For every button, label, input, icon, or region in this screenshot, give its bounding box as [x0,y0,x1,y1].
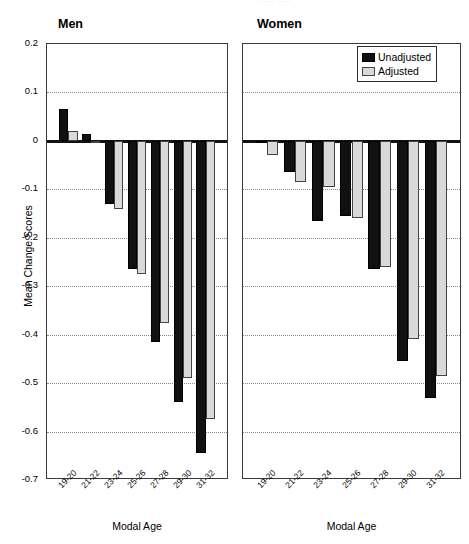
bar-men-25-26-adjusted [137,141,146,274]
gridline [47,92,227,93]
bar-men-27-28-adjusted [160,141,169,323]
bar-women-25-26-unadjusted [340,141,351,216]
bar-men-27-28-unadjusted [151,141,160,342]
y-tick-neg0p5: -0.5 [4,377,38,386]
y-tick-neg0p3: -0.3 [4,280,38,289]
legend-swatch-adjusted-icon [362,67,375,76]
bar-women-21-22-adjusted [295,141,306,182]
legend-label-adjusted: Adjusted [378,66,419,77]
y-tick-0p2: 0.2 [4,38,38,47]
bar-men-29-30-unadjusted [174,141,183,403]
legend-entry-unadjusted: Unadjusted [362,50,431,64]
bar-men-31-32-adjusted [206,141,215,420]
y-tick-neg0p2: -0.2 [4,232,38,241]
bar-men-19-20-unadjusted [59,109,68,140]
chart-figure: ·· ···· ····· Men Women Mean Change Scor… [0,0,469,544]
chart-legend: Unadjusted Adjusted [357,46,437,82]
bar-women-23-24-unadjusted [312,141,323,221]
plot-panel-men [46,43,228,479]
x-axis-label-women: Modal Age [242,520,461,532]
bar-women-31-32-unadjusted [425,141,436,398]
bar-women-23-24-adjusted [323,141,334,187]
legend-swatch-unadjusted-icon [362,53,375,62]
bar-women-27-28-unadjusted [368,141,379,269]
bar-women-29-30-adjusted [408,141,419,340]
bar-women-25-26-adjusted [352,141,363,219]
bar-men-21-22-adjusted [91,141,100,143]
bar-men-19-20-adjusted [68,131,77,141]
bar-men-23-24-unadjusted [105,141,114,204]
bar-men-23-24-adjusted [114,141,123,209]
panel-title-women: Women [257,17,302,31]
bar-women-21-22-unadjusted [284,141,295,172]
bar-men-29-30-adjusted [183,141,192,378]
panel-title-men: Men [58,17,83,31]
gridline [243,432,460,433]
plot-area-women [243,44,460,478]
y-tick-neg0p4: -0.4 [4,329,38,338]
bar-women-19-20-unadjusted [256,141,267,143]
bar-men-25-26-unadjusted [128,141,137,269]
bar-men-21-22-unadjusted [82,134,91,141]
y-tick-neg0p6: -0.6 [4,426,38,435]
legend-entry-adjusted: Adjusted [362,64,431,78]
bar-women-31-32-adjusted [436,141,447,376]
bar-women-29-30-unadjusted [397,141,408,361]
y-tick-0p1: 0.1 [4,86,38,95]
clipped-title: ·· ···· ····· [255,0,375,8]
plot-area-men [47,44,227,478]
gridline [243,92,460,93]
bar-men-31-32-unadjusted [196,141,205,453]
y-tick-neg0p7: -0.7 [4,474,38,483]
y-tick-neg0p1: -0.1 [4,183,38,192]
y-tick-0: 0 [4,135,38,144]
legend-label-unadjusted: Unadjusted [378,52,431,63]
bar-women-19-20-adjusted [267,141,278,156]
plot-panel-women [242,43,461,479]
y-axis-tick-labels: 0.20.10-0.1-0.2-0.3-0.4-0.5-0.6-0.7 [0,0,38,544]
x-axis-label-men: Modal Age [46,520,228,532]
bar-women-27-28-adjusted [380,141,391,267]
